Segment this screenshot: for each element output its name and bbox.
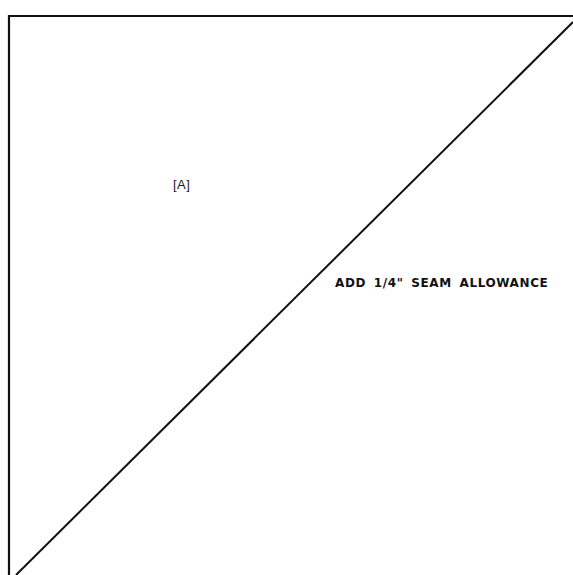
piece-label: [A] bbox=[173, 177, 190, 192]
seam-allowance-note: ADD 1/4" SEAM ALLOWANCE bbox=[335, 276, 548, 290]
diagonal-edge bbox=[16, 22, 573, 575]
